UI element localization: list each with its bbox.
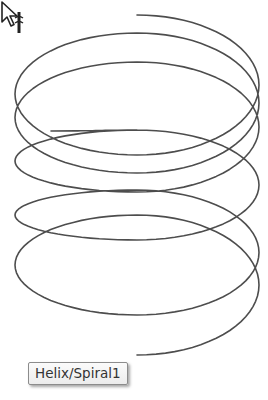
select-cursor-icon: [0, 0, 30, 34]
helix-curve-path[interactable]: [15, 15, 259, 355]
tooltip-label: Helix/Spiral1: [35, 365, 121, 381]
graphics-viewport[interactable]: Helix/Spiral1: [0, 0, 268, 400]
helix-spiral-curve[interactable]: [0, 0, 268, 400]
feature-tooltip: Helix/Spiral1: [28, 362, 128, 385]
